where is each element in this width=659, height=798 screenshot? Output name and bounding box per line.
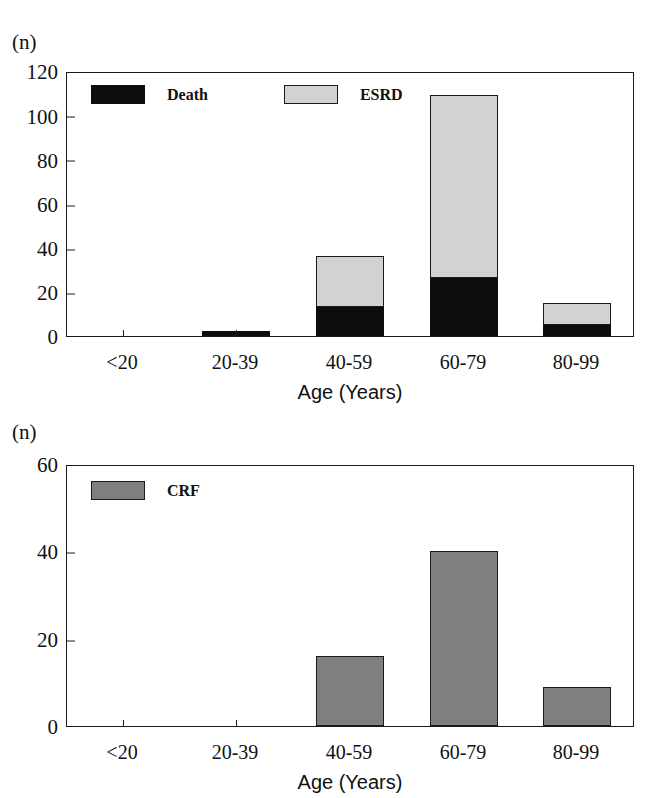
bar-segment-death	[202, 331, 270, 336]
bar-group-80-99	[543, 303, 611, 336]
plot-area-top: Death ESRD	[66, 72, 634, 337]
x-axis-title-bottom: Age (Years)	[298, 771, 403, 793]
x-tick-label: 80-99	[553, 742, 600, 762]
legend-swatch-esrd-icon	[284, 85, 338, 104]
legend-top: Death ESRD	[91, 85, 403, 104]
x-tick-label: 80-99	[553, 352, 600, 372]
bar-group-20-39	[202, 331, 270, 336]
bar-segment-death	[316, 307, 384, 336]
y-tick-label: 40	[37, 542, 58, 563]
x-tick-label: 20-39	[212, 742, 259, 762]
bar-segment-crf	[543, 687, 611, 726]
y-tick-label: 0	[48, 717, 59, 738]
chart-panel-bottom: (n) 0 20 40 60	[0, 400, 659, 798]
y-tick-label: 40	[37, 239, 58, 260]
bar-segment-death	[543, 325, 611, 336]
plot-area-bottom: CRF	[66, 465, 634, 727]
x-tick-label: 20-39	[212, 352, 259, 372]
bars-layer-bottom	[67, 466, 633, 726]
bar-segment-esrd	[543, 303, 611, 325]
legend-item-crf: CRF	[91, 481, 200, 500]
legend-swatch-death-icon	[91, 85, 145, 104]
bars-layer-top	[67, 73, 633, 336]
bar-group-80-99	[543, 687, 611, 726]
y-tick-label: 20	[37, 283, 58, 304]
y-tick-label: 80	[37, 151, 58, 172]
bar-segment-crf	[430, 551, 498, 726]
y-tick-label: 60	[37, 195, 58, 216]
bar-segment-esrd	[316, 256, 384, 307]
x-tick-label: 60-79	[440, 352, 487, 372]
x-tick-label: <20	[106, 352, 137, 372]
bar-group-60-79	[430, 95, 498, 336]
legend-label-crf: CRF	[167, 483, 200, 499]
x-tick-label: 40-59	[326, 742, 373, 762]
y-tick-label: 0	[48, 327, 59, 348]
bar-segment-esrd	[430, 95, 498, 278]
y-tick-label: 100	[27, 107, 59, 128]
y-axis-unit-label-top: (n)	[12, 32, 37, 53]
y-tick-label: 60	[37, 455, 58, 476]
x-tick-label: <20	[106, 742, 137, 762]
legend-swatch-crf-icon	[91, 481, 145, 500]
legend-label-death: Death	[167, 87, 208, 103]
legend-item-esrd: ESRD	[284, 85, 403, 104]
bar-group-40-59	[316, 256, 384, 336]
y-tick-label: 20	[37, 630, 58, 651]
bar-segment-crf	[316, 656, 384, 726]
legend-item-death: Death	[91, 85, 208, 104]
bar-group-60-79	[430, 551, 498, 726]
figure-stacked-bar-charts: (n) 0 20 40 60 80 100 120	[0, 0, 659, 798]
x-tick-label: 60-79	[440, 742, 487, 762]
bar-group-40-59	[316, 656, 384, 726]
y-tick-label: 120	[27, 62, 59, 83]
legend-label-esrd: ESRD	[360, 87, 403, 103]
y-axis-unit-label-bottom: (n)	[12, 422, 37, 443]
legend-bottom: CRF	[91, 481, 200, 500]
bar-segment-death	[430, 278, 498, 336]
x-tick-label: 40-59	[326, 352, 373, 372]
chart-panel-top: (n) 0 20 40 60 80 100 120	[0, 0, 659, 410]
